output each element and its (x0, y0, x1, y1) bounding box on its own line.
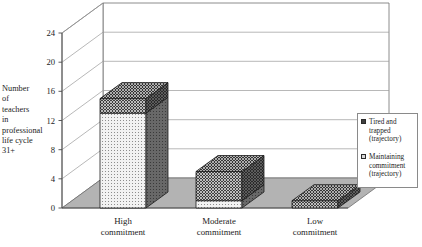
legend-label-maintaining-line-3: (trajectory) (369, 170, 417, 179)
legend-label-tired-and-trapped: Tired and trapped (trajectory) (369, 118, 417, 144)
y-tick-label-8: 8 (33, 146, 55, 155)
x-category-moderate-line-1: Moderate (171, 216, 267, 227)
legend-swatch-tired-and-trapped (361, 119, 366, 124)
y-tick-label-4: 4 (33, 175, 55, 184)
x-category-moderate-line-2: commitment (171, 227, 267, 238)
x-category-high-line-1: High (75, 216, 171, 227)
bar-segment-tired-front (100, 99, 146, 114)
y-tick-label-16: 16 (33, 87, 55, 96)
bar-high-commitment[interactable] (100, 83, 168, 208)
legend-label-maintaining-line-1: Maintaining (369, 153, 417, 162)
chart-legend: Tired and trapped (trajectory) Maintaini… (357, 113, 418, 188)
legend-label-maintaining-line-2: commitment (369, 162, 417, 171)
bar-segment-maintaining-front (100, 113, 146, 208)
x-category-low-line-2: commitment (267, 227, 363, 238)
legend-label-tired-line-3: (trajectory) (369, 135, 417, 144)
y-axis (59, 33, 63, 208)
bar-segment-tired-front (196, 172, 242, 201)
bar-segment-maintaining-side (146, 97, 168, 208)
y-tick-label-12: 12 (33, 117, 55, 126)
x-category-high-line-2: commitment (75, 227, 171, 238)
y-tick-label-20: 20 (33, 58, 55, 67)
bar-segment-tired-front (292, 201, 338, 208)
x-category-label-high: High commitment (75, 216, 171, 237)
legend-item-tired-and-trapped[interactable]: Tired and trapped (trajectory) (361, 118, 417, 144)
legend-label-tired-line-1: Tired and (369, 118, 417, 127)
x-category-low-line-1: Low (267, 216, 363, 227)
x-category-label-moderate: Moderate commitment (171, 216, 267, 237)
x-category-label-low: Low commitment (267, 216, 363, 237)
y-tick-label-0: 0 (33, 204, 55, 213)
y-tick-label-24: 24 (33, 29, 55, 38)
legend-swatch-maintaining-commitment (361, 154, 366, 159)
chart-container: Number of teachers in professional life … (0, 0, 422, 247)
legend-item-maintaining-commitment[interactable]: Maintaining commitment (trajectory) (361, 153, 417, 179)
legend-label-maintaining-commitment: Maintaining commitment (trajectory) (369, 153, 417, 179)
bar-segment-maintaining-front (196, 201, 242, 208)
legend-label-tired-line-2: trapped (369, 127, 417, 136)
